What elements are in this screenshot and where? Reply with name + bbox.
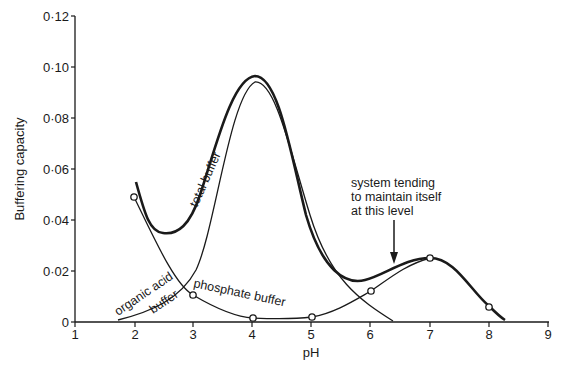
y-tick-label: 0·02: [43, 264, 69, 279]
annotation-line-3: at this level: [351, 204, 414, 218]
x-tick-label: 7: [426, 327, 433, 342]
buffering-capacity-chart: 0 0·02 0·04 0·06 0·08 0·10 0·12 1 2 3 4 …: [0, 0, 562, 367]
y-tick-label: 0·06: [43, 162, 69, 177]
data-point-ph2: [131, 194, 137, 200]
x-tick-label: 1: [71, 327, 78, 342]
data-point-ph8: [486, 304, 492, 310]
data-point-ph3: [190, 292, 196, 298]
phosphate-data-points: [131, 194, 492, 321]
y-tick-label: 0·08: [43, 111, 69, 126]
y-axis-title: Buffering capacity: [12, 117, 27, 221]
x-tick-label: 2: [131, 327, 138, 342]
x-tick-label: 5: [307, 327, 314, 342]
annotation-line-2: to maintain itself: [351, 190, 442, 204]
x-axis-title: pH: [303, 345, 320, 360]
data-point-ph7: [427, 255, 433, 261]
x-tick-label: 8: [485, 327, 492, 342]
y-tick-label: 0·04: [43, 213, 69, 228]
total-buffer-label: total buffer: [187, 150, 224, 209]
phosphate-buffer-label: phosphate buffer: [192, 276, 286, 309]
y-tick-label: 0·10: [43, 60, 69, 75]
x-tick-label: 4: [248, 327, 255, 342]
x-tick-label: 3: [189, 327, 196, 342]
annotation: system tending to maintain itself at thi…: [351, 176, 442, 264]
annotation-line-1: system tending: [351, 176, 435, 190]
annotation-arrow-head-icon: [390, 252, 398, 264]
data-point-ph5: [309, 314, 315, 320]
x-tick-label: 6: [366, 327, 373, 342]
y-tick-label: 0·12: [43, 9, 69, 24]
data-point-ph4: [250, 315, 256, 321]
y-tick-labels: 0 0·02 0·04 0·06 0·08 0·10 0·12: [43, 9, 69, 330]
x-tick-label: 9: [544, 327, 551, 342]
y-tick-label: 0: [62, 315, 69, 330]
data-point-ph6: [368, 288, 374, 294]
x-tick-labels: 1 2 3 4 5 6 7 8 9: [71, 327, 551, 342]
